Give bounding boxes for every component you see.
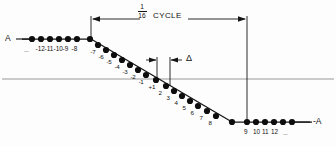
sample-label: -8 — [72, 46, 78, 52]
cycle-arrowhead-left-icon — [92, 16, 100, 22]
sample-dot — [56, 36, 62, 42]
amplitude-label-right: -A — [313, 117, 322, 126]
cycle-label: CYCLE — [153, 12, 182, 20]
sample-dot — [229, 119, 235, 125]
ramp-line — [91, 39, 232, 122]
ellipsis-left: ... — [24, 47, 29, 53]
sample-dot — [262, 119, 268, 125]
sample-label: 10 — [253, 129, 260, 135]
sample-dot — [171, 88, 177, 94]
sample-dot — [47, 36, 53, 42]
sample-label: 6 — [191, 110, 194, 116]
sample-label: 7 — [200, 115, 203, 121]
delta-arrowhead-right-icon — [171, 57, 179, 62]
delta-arrowhead-left-icon — [149, 57, 157, 62]
sample-dot — [195, 103, 201, 109]
sample-dot — [187, 98, 193, 104]
sample-label: 5 — [183, 105, 186, 111]
delta-label: Δ — [186, 54, 192, 63]
sample-dot — [29, 36, 35, 42]
fraction-numerator: 1 — [134, 4, 150, 11]
figure-staircase-waveform: 1 16 CYCLE Δ A -A ... ... -12-11-10-9-8-… — [0, 0, 336, 146]
sample-label: -4 — [115, 64, 120, 70]
sample-dot — [244, 119, 250, 125]
sample-label: 9 — [244, 129, 248, 135]
sample-label: 12 — [271, 129, 278, 135]
amplitude-label-left: A — [5, 34, 11, 43]
sample-label: -11 — [45, 46, 54, 52]
sample-label: 4 — [175, 100, 178, 106]
cycle-arrowhead-right-icon — [238, 16, 246, 22]
sample-label: +1 — [149, 84, 156, 90]
cycle-fraction: 1 16 — [134, 4, 150, 20]
ellipsis-right: ... — [283, 130, 288, 136]
sample-label: -6 — [99, 54, 104, 60]
sample-label: 8 — [209, 120, 212, 126]
sample-label: 11 — [262, 129, 269, 135]
sample-dot — [74, 36, 80, 42]
fraction-denominator: 16 — [134, 13, 150, 20]
sample-dot — [253, 119, 259, 125]
sample-label: -3 — [123, 69, 128, 75]
sample-dot — [179, 93, 185, 99]
sample-dot — [280, 119, 286, 125]
sample-dot — [289, 119, 295, 125]
sample-dot — [65, 36, 71, 42]
sample-label: -2 — [131, 74, 136, 80]
sample-dot — [213, 113, 219, 119]
sample-label: -7 — [91, 49, 96, 55]
sample-dot — [38, 36, 44, 42]
sample-label: 2 — [159, 90, 162, 96]
sample-label: -10 — [54, 46, 63, 52]
sample-label: -12 — [36, 46, 45, 52]
sample-dot — [204, 108, 210, 114]
sample-label: -1 — [139, 79, 144, 85]
sample-label: -5 — [107, 59, 112, 65]
sample-dot — [163, 83, 169, 89]
sample-dot — [87, 36, 93, 42]
sample-dot — [271, 119, 277, 125]
diagram-canvas — [0, 0, 336, 146]
sample-label: 3 — [167, 95, 170, 101]
sample-label: -9 — [63, 46, 69, 52]
